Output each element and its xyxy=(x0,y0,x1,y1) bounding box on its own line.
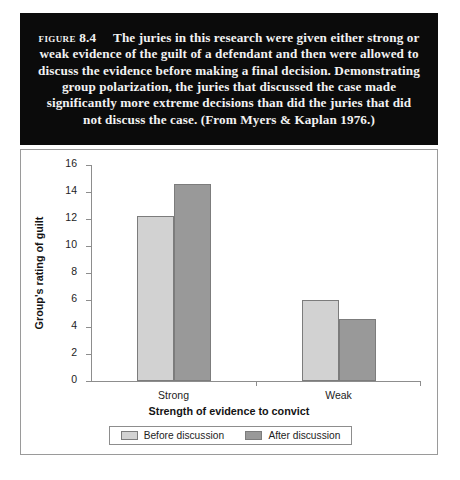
y-axis-tick: 8 xyxy=(86,273,91,274)
y-axis-tick: 2 xyxy=(86,354,91,355)
bar-strong-before xyxy=(137,216,174,381)
x-axis-label-strong: Strong xyxy=(158,389,189,401)
y-axis-tick: 6 xyxy=(86,300,91,301)
bar-weak-after xyxy=(339,319,376,381)
legend-item-label: After discussion xyxy=(268,430,340,441)
y-axis-tick-label: 12 xyxy=(65,211,77,223)
y-axis-tick-label: 8 xyxy=(71,265,77,277)
chart-frame: Group's rating of guilt 0246810121416Str… xyxy=(20,149,438,455)
y-axis-title: Group's rating of guilt xyxy=(31,165,47,381)
legend-item: After discussion xyxy=(245,430,340,441)
y-axis-tick-label: 2 xyxy=(71,346,77,358)
y-axis-tick-label: 16 xyxy=(65,157,77,169)
x-axis-title: Strength of evidence to convict xyxy=(21,405,437,417)
y-axis-tick: 14 xyxy=(86,192,91,193)
figure-8-4: Figure 8.4 The juries in this research w… xyxy=(0,0,460,480)
bar-strong-after xyxy=(174,184,211,381)
figure-caption-box: Figure 8.4 The juries in this research w… xyxy=(20,13,438,145)
x-axis-tick xyxy=(256,381,257,386)
y-axis-tick: 12 xyxy=(86,219,91,220)
x-axis-tick-end xyxy=(420,381,421,386)
y-axis-tick: 16 xyxy=(86,165,91,166)
y-axis-tick: 10 xyxy=(86,246,91,247)
legend-item: Before discussion xyxy=(121,430,224,441)
figure-caption-number: 8.4 xyxy=(79,30,96,45)
figure-caption-label: Figure xyxy=(39,30,76,45)
legend-item-label: Before discussion xyxy=(144,430,224,441)
y-axis-tick: 0 xyxy=(86,381,91,382)
y-axis-tick-label: 6 xyxy=(71,292,77,304)
y-axis-line xyxy=(91,165,92,381)
y-axis-tick-label: 14 xyxy=(65,184,77,196)
figure-caption-text: Figure 8.4 The juries in this research w… xyxy=(20,30,438,128)
y-axis-title-text: Group's rating of guilt xyxy=(33,217,45,330)
y-axis-tick: 4 xyxy=(86,327,91,328)
legend-swatch-icon xyxy=(245,431,262,440)
x-axis-label-weak: Weak xyxy=(325,389,352,401)
y-axis-tick-label: 4 xyxy=(71,319,77,331)
bar-weak-before xyxy=(302,300,339,381)
figure-caption-body: The juries in this research were given e… xyxy=(38,30,420,127)
y-axis-tick-label: 0 xyxy=(71,373,77,385)
y-axis-tick-label: 10 xyxy=(65,238,77,250)
plot-area: 0246810121416StrongWeak xyxy=(91,165,421,381)
legend-swatch-icon xyxy=(121,431,138,440)
chart-legend: Before discussionAfter discussion xyxy=(109,426,352,445)
